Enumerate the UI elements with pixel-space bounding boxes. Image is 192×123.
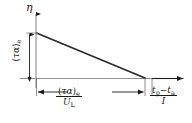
y-intercept-dimension-label: (τα)e <box>12 29 21 73</box>
x-dimension-fraction: (τα)e UL <box>56 86 82 108</box>
x-axis-denominator: I <box>150 95 177 107</box>
x-dimension-denominator: UL <box>56 96 82 108</box>
x-axis-numerator: tp−ta <box>150 85 177 95</box>
x-dimension-denominator-subscript: L <box>71 101 75 109</box>
x-axis-fraction: tp−ta I <box>150 85 177 107</box>
y-dimension-arrow-head <box>28 77 32 82</box>
irradiance-symbol: I <box>162 96 166 106</box>
t-a-subscript: a <box>171 89 175 97</box>
x-axis-title: tp−ta I <box>150 85 177 107</box>
x-dimension-numerator-subscript: e <box>76 90 80 98</box>
efficiency-line <box>37 33 146 78</box>
y-intercept-dimension-subscript: e <box>15 40 23 44</box>
u-symbol: U <box>63 97 71 107</box>
t-p-subscript: p <box>156 89 160 97</box>
y-axis-title: η <box>26 2 33 13</box>
figure-canvas: η (τα)e (τα)e UL tp−ta I <box>0 0 192 123</box>
tau-alpha-symbol-y: τα <box>11 47 21 58</box>
x-dimension-label: (τα)e UL <box>56 86 82 108</box>
x-dimension-numerator: (τα)e <box>56 86 82 96</box>
